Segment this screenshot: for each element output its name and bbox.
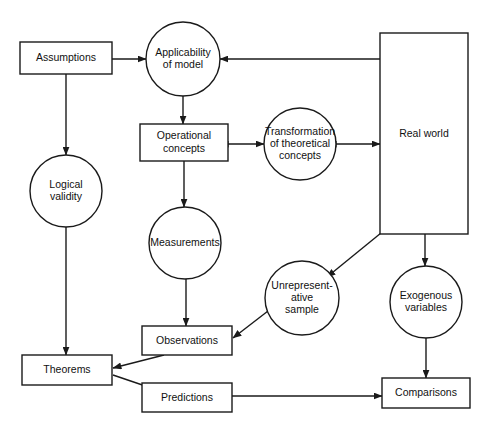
- node-observations[interactable]: Observations: [142, 326, 232, 355]
- edge-unrepresentative-to-observations: [233, 311, 268, 338]
- node-label-logical-validity: Logicalvalidity: [49, 178, 82, 202]
- node-label-comparisons: Comparisons: [395, 386, 457, 398]
- node-real-world[interactable]: Real world: [380, 33, 468, 234]
- node-predictions[interactable]: Predictions: [142, 383, 232, 412]
- node-label-applicability: Applicabilityof model: [155, 46, 211, 70]
- diagram-canvas: AssumptionsApplicabilityof modelReal wor…: [0, 0, 491, 431]
- node-operational[interactable]: Operationalconcepts: [140, 124, 228, 161]
- node-label-assumptions: Assumptions: [36, 51, 96, 63]
- flow-diagram: AssumptionsApplicabilityof modelReal wor…: [0, 0, 491, 431]
- node-label-predictions: Predictions: [161, 390, 213, 402]
- node-measurements[interactable]: Measurements: [149, 207, 221, 279]
- node-assumptions[interactable]: Assumptions: [20, 42, 112, 74]
- node-exogenous[interactable]: Exogenousvariables: [390, 266, 462, 338]
- node-label-operational: Operationalconcepts: [157, 129, 211, 153]
- node-label-measurements: Measurements: [150, 236, 219, 248]
- node-unrepresentative[interactable]: Unrepresent-ativesample: [265, 261, 339, 335]
- node-comparisons[interactable]: Comparisons: [382, 378, 470, 408]
- node-logical-validity[interactable]: Logicalvalidity: [30, 155, 102, 227]
- edge-real-world-to-unrepresentative: [327, 233, 381, 277]
- node-label-real-world: Real world: [399, 126, 449, 138]
- node-applicability[interactable]: Applicabilityof model: [146, 22, 220, 96]
- nodes-layer: AssumptionsApplicabilityof modelReal wor…: [20, 22, 470, 412]
- node-label-exogenous: Exogenousvariables: [400, 289, 453, 313]
- node-label-theorems: Theorems: [43, 363, 90, 375]
- node-transformation[interactable]: Transformationof theoreticalconcepts: [264, 108, 336, 180]
- node-theorems[interactable]: Theorems: [22, 355, 112, 385]
- node-label-observations: Observations: [156, 333, 218, 345]
- edges-layer: [66, 59, 426, 396]
- edge-observations-to-theorems: [113, 355, 164, 368]
